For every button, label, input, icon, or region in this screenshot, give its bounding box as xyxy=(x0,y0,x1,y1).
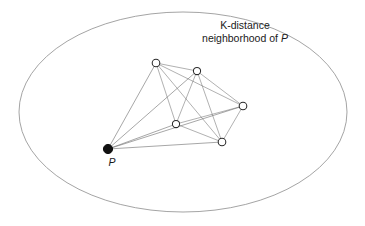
caption-line-2-variable: P xyxy=(281,32,288,44)
focal-point-label: P xyxy=(108,156,115,168)
caption-line-1: K-distance xyxy=(220,19,270,31)
knn-neighborhood-diagram: K-distance neighborhood of P P xyxy=(0,0,365,226)
neighbor-node xyxy=(152,59,160,67)
neighbor-node xyxy=(172,120,179,127)
neighbor-node xyxy=(239,102,247,110)
caption-line-2: neighborhood of P xyxy=(202,32,288,44)
neighbor-node xyxy=(218,138,226,146)
diagram-canvas: K-distance neighborhood of P P xyxy=(0,0,365,226)
neighborhood-boundary-ellipse xyxy=(19,12,347,212)
neighbor-node xyxy=(193,67,200,74)
focal-point-node xyxy=(103,144,112,153)
caption-line-2-prefix: neighborhood of xyxy=(202,32,281,44)
